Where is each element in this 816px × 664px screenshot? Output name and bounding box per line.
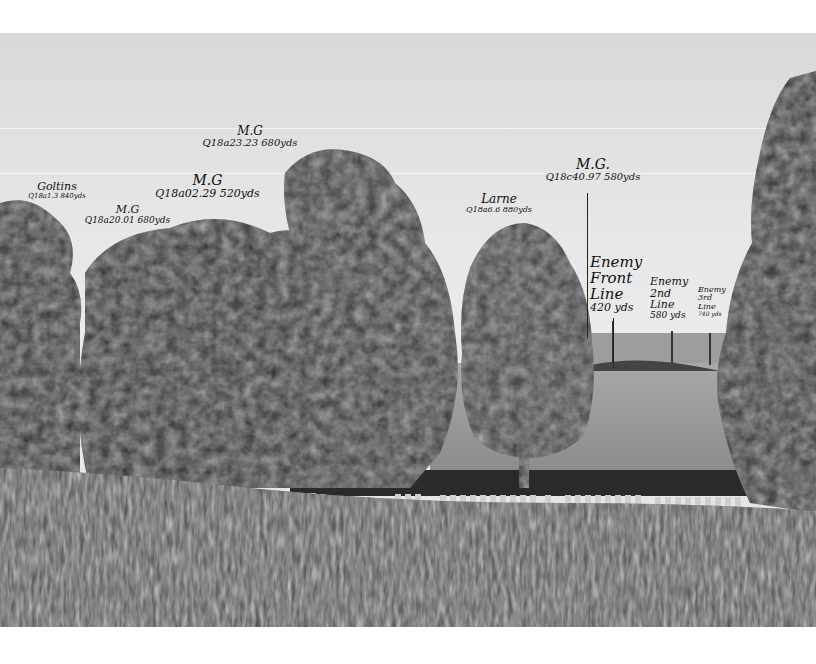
annotation-goltins: Goltins Q18a1.3 840yds xyxy=(22,181,92,200)
annotation-enemy-front-line: Enemy Front Line 420 yds xyxy=(590,255,650,314)
annotation-larne: Larne Q18a6.6 880yds xyxy=(458,193,540,214)
annotation-coords: Q18a23.23 680yds xyxy=(200,138,300,149)
annotation-mg-1: M.G Q18a23.23 680yds xyxy=(200,125,300,148)
annotation-line: Enemy xyxy=(650,276,695,288)
annotation-distance: 740 yds xyxy=(698,311,734,317)
annotation-coords: Q18a6.6 880yds xyxy=(458,206,540,214)
annotation-title: Goltins xyxy=(22,181,92,193)
annotation-title: M.G xyxy=(80,204,175,216)
scene-illustration xyxy=(0,33,816,627)
enemy-front-pointer-line xyxy=(613,318,614,368)
annotation-enemy-2nd-line: Enemy 2nd Line 580 yds xyxy=(650,276,695,320)
annotation-line: Line xyxy=(590,287,650,303)
annotation-mg-3: M.G Q18a20.01 680yds xyxy=(80,204,175,225)
annotation-coords: Q18a1.3 840yds xyxy=(22,193,92,200)
left-trees xyxy=(0,149,458,488)
annotation-title: M.G. xyxy=(538,157,648,172)
annotation-coords: Q18c40.97 580yds xyxy=(538,172,648,183)
annotation-distance: 580 yds xyxy=(650,311,695,320)
annotation-title: M.G xyxy=(150,173,265,188)
annotation-mg-4: M.G. Q18c40.97 580yds xyxy=(538,157,648,182)
annotation-distance: 420 yds xyxy=(590,302,650,314)
annotation-title: Larne xyxy=(458,193,540,206)
mg-pointer-line xyxy=(587,193,588,338)
landscape-photo: M.G Q18a23.23 680yds M.G Q18a02.29 520yd… xyxy=(0,33,816,627)
annotation-line: Line xyxy=(650,299,695,311)
annotation-coords: Q18a20.01 680yds xyxy=(80,216,175,225)
annotation-mg-2: M.G Q18a02.29 520yds xyxy=(150,173,265,199)
annotation-enemy-3rd-line: Enemy 3rd Line 740 yds xyxy=(698,286,734,317)
annotation-title: M.G xyxy=(200,125,300,138)
annotation-coords: Q18a02.29 520yds xyxy=(150,188,265,200)
